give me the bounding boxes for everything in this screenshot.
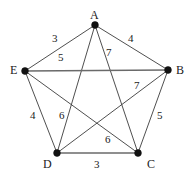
vertex-label-e: E [10,64,17,76]
graph-edge [25,70,168,71]
vertex-layer [22,22,172,157]
vertex-label-d: D [43,158,52,170]
vertex-label-b: B [176,64,184,76]
graph-vertex-a [92,22,99,29]
edge-weight-ed: 4 [30,110,36,121]
edge-weight-ad: 6 [59,110,65,121]
edge-weight-dc: 3 [94,159,100,170]
edge-weight-bd: 7 [134,80,140,91]
edge-weight-bc: 5 [157,110,163,121]
vertex-label-c: C [147,158,155,170]
edge-layer [25,25,168,153]
edge-weight-ab: 4 [128,33,134,44]
graph-canvas [0,0,193,177]
vertex-label-a: A [90,9,99,21]
edge-weight-ac: 7 [106,47,112,58]
edge-weight-ae: 3 [52,33,58,44]
graph-edge [138,70,168,153]
graph-edge [95,25,138,153]
graph-vertex-b [165,67,172,74]
graph-edge [57,70,168,153]
graph-vertex-e [22,68,29,75]
graph-vertex-c [135,150,142,157]
weighted-graph-figure: ABCDE 3476546753 [0,0,193,177]
graph-edge [25,71,138,153]
graph-edge [57,25,95,153]
edge-weight-eb: 5 [58,52,64,63]
graph-vertex-d [54,150,61,157]
edge-weight-ec: 6 [105,134,111,145]
graph-edge [25,25,95,71]
